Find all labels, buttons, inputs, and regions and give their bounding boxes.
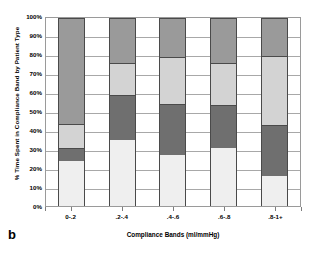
bar-segment-series-2: [211, 105, 236, 148]
y-tick-label: 80%: [14, 52, 42, 58]
bar-.4-.6: [159, 18, 186, 206]
bar-segment-series-1: [211, 148, 236, 206]
bar-segment-series-4: [211, 18, 236, 63]
bar-segment-series-3: [160, 57, 185, 104]
bar-.6-.8: [210, 18, 237, 206]
plot-area: [45, 17, 301, 207]
y-tick-label: 50%: [14, 109, 42, 115]
x-axis-tick-labels: 0-.2.2-.4.4-.6.6-.8.8-1+: [45, 214, 301, 226]
bar-0-.2: [58, 18, 85, 206]
x-tick-label: .2-.4: [97, 214, 147, 220]
bar-.2-.4: [109, 18, 136, 206]
bar-segment-series-1: [160, 155, 185, 206]
y-tick-label: 30%: [14, 147, 42, 153]
y-tick-label: 60%: [14, 90, 42, 96]
x-tick-mark: [275, 207, 276, 211]
bar-segment-series-1: [59, 161, 84, 206]
bar-segment-series-1: [262, 176, 287, 206]
x-axis-title: Compliance Bands (ml/mmHg): [45, 232, 301, 238]
bar-segment-series-3: [110, 63, 135, 95]
bar-segment-series-4: [160, 18, 185, 57]
x-tick-mark: [122, 207, 123, 211]
x-tick-mark: [173, 207, 174, 211]
x-tick-label: .6-.8: [199, 214, 249, 220]
figure-panel-b: b % Time Spent in Compliance Band by Pat…: [0, 0, 310, 253]
y-tick-label: 10%: [14, 185, 42, 191]
panel-letter: b: [8, 228, 16, 241]
y-tick-label: 40%: [14, 128, 42, 134]
x-tick-mark: [71, 207, 72, 211]
bar-group: [46, 18, 300, 206]
bar-segment-series-1: [110, 140, 135, 206]
x-tick-label: 0-.2: [46, 214, 96, 220]
bar-segment-series-3: [262, 56, 287, 126]
y-tick-label: 90%: [14, 33, 42, 39]
bar-segment-series-2: [110, 95, 135, 140]
bar-segment-series-2: [160, 104, 185, 155]
bar-.8-1+: [261, 18, 288, 206]
x-tick-label: .8-1+: [250, 214, 300, 220]
y-tick-label: 0%: [14, 204, 42, 210]
x-tick-mark: [301, 207, 302, 211]
x-axis-tick-marks: [45, 207, 301, 211]
x-tick-label: .4-.6: [148, 214, 198, 220]
bar-segment-series-2: [262, 125, 287, 176]
bar-segment-series-4: [59, 18, 84, 124]
y-tick-label: 20%: [14, 166, 42, 172]
x-tick-mark: [224, 207, 225, 211]
bar-segment-series-4: [110, 18, 135, 63]
bar-segment-series-2: [59, 148, 84, 161]
bar-segment-series-3: [59, 124, 84, 148]
y-axis-tick-labels: 0%10%20%30%40%50%60%70%80%90%100%: [14, 12, 42, 212]
x-tick-mark: [45, 207, 46, 211]
y-tick-label: 100%: [14, 14, 42, 20]
bar-segment-series-4: [262, 18, 287, 56]
bar-segment-series-3: [211, 63, 236, 104]
y-tick-label: 70%: [14, 71, 42, 77]
